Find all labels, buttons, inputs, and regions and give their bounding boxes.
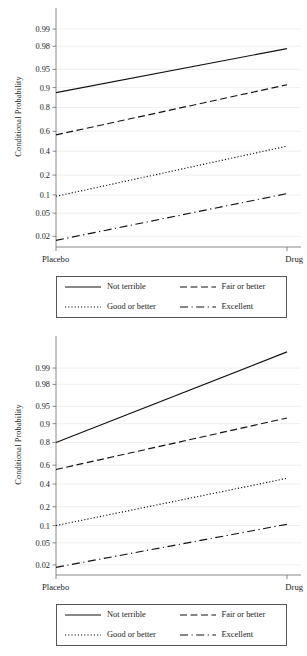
plot-area-bottom: Conditional Probability 0.990.980.950.90… <box>0 328 307 600</box>
y-tick-label: 0.2 <box>40 503 50 512</box>
legend-item-fair-or-better[interactable]: Fair or better <box>172 611 287 619</box>
y-tick-label: 0.99 <box>35 25 50 34</box>
y-tick-label: 0.6 <box>40 127 50 136</box>
series-line-not-terrible <box>56 352 287 443</box>
legend-label: Good or better <box>107 303 156 311</box>
legend-item-excellent[interactable]: Excellent <box>172 631 287 639</box>
series-line-fair-or-better <box>56 85 287 135</box>
series-line-excellent <box>56 524 287 567</box>
y-tick-label: 0.02 <box>35 561 50 570</box>
legend-swatch-dashed <box>179 611 217 619</box>
y-tick-label: 0.95 <box>35 65 50 74</box>
series-line-excellent <box>56 194 287 241</box>
x-tick-label: Drug <box>285 254 303 264</box>
y-axis-title-bottom: Conditional Probability <box>14 380 23 510</box>
chart-panel-bottom: Conditional Probability 0.990.980.950.90… <box>0 328 307 656</box>
series-line-not-terrible <box>56 49 287 93</box>
y-tick-label: 0.8 <box>40 438 50 447</box>
legend-label: Fair or better <box>222 611 266 619</box>
legend-swatch-dashdot <box>179 631 217 639</box>
legend-swatch-solid <box>64 611 102 619</box>
series-line-fair-or-better <box>56 418 287 470</box>
legend-label: Good or better <box>107 631 156 639</box>
series-line-good-or-better <box>56 146 287 196</box>
x-tick-label: Placebo <box>42 582 69 592</box>
legend-swatch-dashed <box>179 283 217 291</box>
legend-label: Excellent <box>222 303 254 311</box>
y-tick-label: 0.05 <box>35 209 50 218</box>
y-tick-label: 0.4 <box>40 147 51 156</box>
y-tick-label: 0.2 <box>40 171 50 180</box>
y-tick-label: 0.02 <box>35 232 50 241</box>
y-axis-title-top: Conditional Probability <box>14 52 23 182</box>
legend-item-excellent[interactable]: Excellent <box>172 303 287 311</box>
chart-svg-bottom: 0.990.980.950.90.80.60.40.20.10.050.02Pl… <box>0 328 307 600</box>
legend-top: Not terribleFair or betterGood or better… <box>56 276 287 318</box>
legend-item-not-terrible[interactable]: Not terrible <box>57 611 172 619</box>
y-tick-label: 0.1 <box>40 191 50 200</box>
x-tick-label: Placebo <box>42 254 69 264</box>
legend-item-not-terrible[interactable]: Not terrible <box>57 283 172 291</box>
chart-panel-top: Conditional Probability 0.990.980.950.90… <box>0 0 307 328</box>
y-tick-label: 0.8 <box>40 103 50 112</box>
y-tick-label: 0.05 <box>35 539 50 548</box>
y-tick-label: 0.1 <box>40 522 50 531</box>
legend-item-fair-or-better[interactable]: Fair or better <box>172 283 287 291</box>
legend-swatch-dotted <box>64 303 102 311</box>
y-tick-label: 0.6 <box>40 461 50 470</box>
legend-swatch-dashdot <box>179 303 217 311</box>
y-tick-label: 0.9 <box>40 84 50 93</box>
legend-item-good-or-better[interactable]: Good or better <box>57 303 172 311</box>
legend-label: Fair or better <box>222 283 266 291</box>
series-line-good-or-better <box>56 478 287 525</box>
legend-bottom: Not terribleFair or betterGood or better… <box>56 604 287 646</box>
figure-two-panel-conditional-probability: Conditional Probability 0.990.980.950.90… <box>0 0 307 656</box>
legend-swatch-dotted <box>64 631 102 639</box>
y-tick-label: 0.9 <box>40 420 50 429</box>
legend-label: Not terrible <box>107 283 146 291</box>
y-tick-label: 0.4 <box>40 480 51 489</box>
plot-area-top: Conditional Probability 0.990.980.950.90… <box>0 0 307 272</box>
y-tick-label: 0.98 <box>35 380 50 389</box>
legend-swatch-solid <box>64 283 102 291</box>
y-tick-label: 0.98 <box>35 42 50 51</box>
legend-item-good-or-better[interactable]: Good or better <box>57 631 172 639</box>
y-tick-label: 0.99 <box>35 364 50 373</box>
x-tick-label: Drug <box>285 582 303 592</box>
y-tick-label: 0.95 <box>35 402 50 411</box>
legend-label: Excellent <box>222 631 254 639</box>
legend-label: Not terrible <box>107 611 146 619</box>
chart-svg-top: 0.990.980.950.90.80.60.40.20.10.050.02Pl… <box>0 0 307 272</box>
